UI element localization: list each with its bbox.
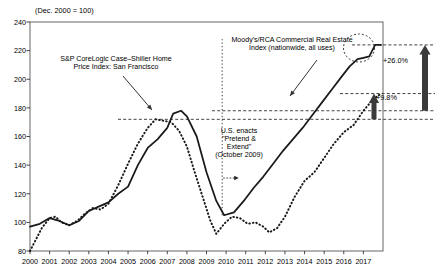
units-note: (Dec. 2000 = 100) [35, 7, 94, 15]
leader-case-shiller [123, 76, 152, 110]
series-label-case-shiller: S&P CoreLogic Case–Shiller Home Price In… [52, 56, 180, 72]
y-tick-80: 80 [6, 247, 26, 256]
y-tick-160: 160 [6, 132, 26, 141]
leader-moodys-rca [290, 60, 317, 96]
y-tick-200: 200 [6, 75, 26, 84]
series-path-moodys-rca [30, 45, 381, 227]
series-label-moodys-rca: Moody's/RCA Commercial Real Estate Index… [230, 37, 354, 53]
event-pointer-arrowhead [234, 176, 239, 181]
gain-arrow-commercial [419, 45, 430, 111]
chart-figure: (Dec. 2000 = 100) S&P CoreLogic Case–Shi… [0, 0, 439, 276]
gain-label-commercial: +26.0% [383, 57, 408, 65]
y-tick-120: 120 [6, 190, 26, 199]
y-tick-100: 100 [6, 218, 26, 227]
data-series [30, 45, 381, 251]
y-tick-220: 220 [6, 46, 26, 55]
leader-head-moodys-rca [290, 90, 295, 96]
x-tick-2017: 2017 [352, 257, 374, 266]
y-tick-140: 140 [6, 161, 26, 170]
series-path-case-shiller [30, 94, 381, 251]
gain-label-housing: +9.8% [376, 94, 397, 102]
y-tick-240: 240 [6, 18, 26, 27]
y-tick-180: 180 [6, 104, 26, 113]
event-label-pretend-extend: U.S. enacts "Pretend & Extend" (October … [213, 128, 265, 160]
